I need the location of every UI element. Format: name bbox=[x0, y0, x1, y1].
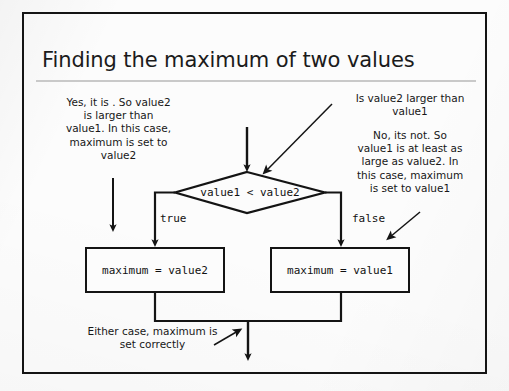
annotation-bottom: Either case, maximum is set correctly bbox=[60, 325, 245, 351]
annotation-right: No, its not. So value1 is at least as la… bbox=[330, 129, 490, 195]
process-box-false-text: maximum = value1 bbox=[287, 264, 393, 277]
title-underline-rule bbox=[36, 80, 476, 82]
branch-label-false: false bbox=[352, 212, 385, 225]
annotation-left: Yes, it is . So value2 is larger than va… bbox=[36, 96, 201, 162]
decision-condition-text: value1 < value2 bbox=[187, 186, 313, 199]
process-box-true-text: maximum = value2 bbox=[102, 264, 208, 277]
process-box-false: maximum = value1 bbox=[270, 247, 410, 293]
page-title: Finding the maximum of two values bbox=[42, 48, 442, 72]
annotation-top-right: Is value2 larger than value1 bbox=[330, 92, 490, 118]
slide-canvas: Finding the maximum of two values bbox=[0, 0, 509, 391]
branch-label-true: true bbox=[160, 212, 187, 225]
process-box-true: maximum = value2 bbox=[85, 247, 225, 293]
